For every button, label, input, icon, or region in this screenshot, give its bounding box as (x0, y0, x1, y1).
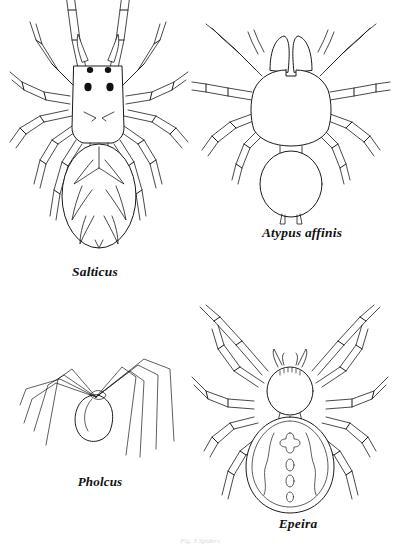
figure-pholcus (18, 345, 193, 470)
figure-label-epeira: Epeira (218, 516, 378, 532)
figure-label-salticus: Salticus (0, 264, 190, 280)
figure-label-pholcus: Pholcus (10, 474, 190, 490)
figure-atypus-affinis (190, 18, 395, 228)
figure-label-atypus-affinis: Atypus affinis (212, 225, 392, 241)
figure-salticus (0, 0, 200, 262)
figure-epeira (190, 305, 390, 520)
figure-plate: Salticus Atypus affinis Pholcus Epeira F… (0, 0, 400, 545)
figure-caption-cutoff: Fig. 3 Spiders (0, 537, 400, 545)
